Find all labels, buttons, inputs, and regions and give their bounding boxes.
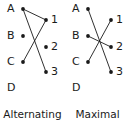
edge-group-maximal-matching [88,9,111,72]
vertex-dot-1 [44,18,48,22]
edge-C-1 [88,20,111,62]
graph-maximal-matching: A B C D 1 2 3 [65,0,130,80]
vertex-dot-B [21,34,25,38]
vertex-label-1: 1 [51,14,58,25]
vertex-label-B: B [72,30,80,41]
vertex-dot-C [86,60,90,64]
edge-C-1 [23,20,46,62]
bipartite-graph-figure: A B C D 1 2 3 Alternating path [0,0,131,123]
vertex-label-2: 2 [116,41,123,52]
vertex-label-D: D [7,82,15,93]
vertex-dot-1 [109,18,113,22]
vertex-label-C: C [72,56,80,67]
vertex-dot-2 [109,45,113,49]
caption-line-1: Maximal [65,108,130,121]
caption-line-1: Alternating [0,108,65,121]
caption-alternating-path: Alternating path [0,95,65,123]
vertex-dot-A [86,7,90,11]
panel-alternating-path: A B C D 1 2 3 Alternating path [0,0,65,123]
vertex-dot-B [86,34,90,38]
vertex-dot-2 [44,45,48,49]
vertex-dot-A [21,7,25,11]
vertex-label-A: A [7,3,15,14]
panel-maximal-matching: A B C D 1 2 3 Maximal matching [65,0,130,123]
vertex-dot-3 [44,70,48,74]
vertex-label-A: A [72,3,80,14]
vertex-label-B: B [7,30,15,41]
vertex-dot-3 [109,70,113,74]
vertex-label-C: C [7,56,15,67]
vertex-label-3: 3 [51,66,58,77]
edge-group-alternating-path [23,9,46,72]
vertex-label-3: 3 [116,66,123,77]
vertex-dot-C [21,60,25,64]
graph-alternating-path: A B C D 1 2 3 [0,0,65,80]
vertex-label-1: 1 [116,14,123,25]
vertex-label-2: 2 [51,41,58,52]
vertex-label-D: D [72,82,80,93]
caption-maximal-matching: Maximal matching [65,95,130,123]
